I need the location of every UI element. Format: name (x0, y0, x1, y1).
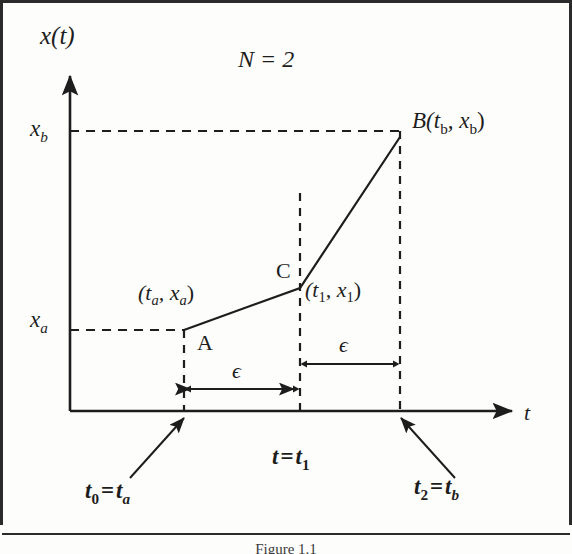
point-marker-label-A: A (197, 330, 213, 356)
point-marker-label-C: C (276, 258, 291, 284)
axis-annotation-t2: t2=tb (414, 474, 459, 504)
point-coord-label-A: (ta, xa) (138, 280, 194, 309)
epsilon-right-arrowhead (301, 361, 308, 368)
figure-title-label: N = 2 (238, 46, 294, 73)
trajectory-path (184, 137, 400, 330)
figure-container: x(t) t N = 2 xb xa B(tb, xb) (ta, xa) A … (0, 0, 572, 554)
y-axis-label: x(t) (40, 22, 75, 50)
y-tick-label-xb: xb (30, 116, 48, 146)
epsilon-right-label: ϵ (339, 332, 348, 358)
y-tick-label-xa: xa (30, 307, 48, 337)
pointer-t0 (130, 418, 184, 478)
point-label-B: B(tb, xb) (412, 108, 485, 138)
pointer-t2 (401, 418, 455, 478)
axis-annotation-t0: t0=ta (85, 478, 130, 508)
epsilon-left-arrowhead-2 (293, 386, 300, 393)
x-axis-label: t (524, 400, 530, 426)
axis-annotation-t1: t=t1 (272, 444, 309, 474)
caption-divider (2, 533, 570, 535)
figure-caption: Figure 1.1 (0, 540, 572, 554)
epsilon-left-arrowhead (185, 386, 192, 393)
point-coord-label-C: (t1, x1) (305, 277, 361, 306)
epsilon-left-label: ϵ (232, 358, 241, 384)
epsilon-right-arrowhead-2 (393, 361, 400, 368)
